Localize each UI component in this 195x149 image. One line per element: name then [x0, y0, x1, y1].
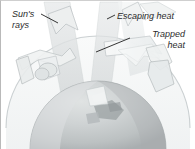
ray-ground-contact: [86, 86, 108, 106]
label-suns-rays: Sun's rays: [12, 9, 34, 30]
label-escaping-heat: Escaping heat: [117, 11, 174, 22]
label-trapped-heat: Trapped heat: [125, 29, 185, 50]
greenhouse-effect-figure: Sun's rays Escaping heat Trapped heat: [0, 0, 195, 149]
